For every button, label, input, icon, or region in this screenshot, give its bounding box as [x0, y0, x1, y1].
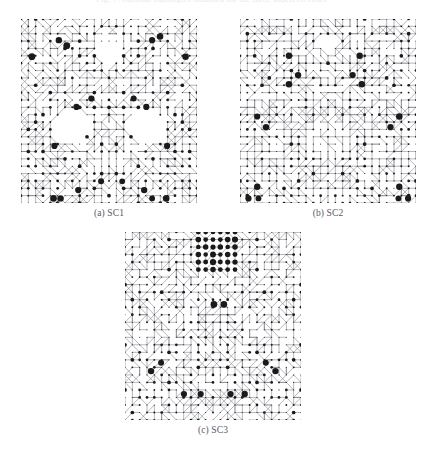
lattice-sc1 — [21, 19, 197, 203]
figure-root: Fig. 7. Optimal topologies obtained for … — [0, 0, 423, 457]
lattice-edges — [240, 19, 416, 203]
cropped-header-text: Fig. 7. Optimal topologies obtained for … — [0, 0, 423, 3]
lattice-edges — [21, 19, 197, 203]
caption-sc3: (c) SC3 — [125, 425, 301, 435]
caption-sc2: (b) SC2 — [240, 208, 416, 218]
panel-sc3 — [125, 232, 301, 420]
panel-sc1 — [21, 19, 197, 203]
caption-sc1: (a) SC1 — [21, 208, 197, 218]
lattice-sc2 — [240, 19, 416, 203]
lattice-sc3 — [125, 232, 301, 420]
panel-sc2 — [240, 19, 416, 203]
